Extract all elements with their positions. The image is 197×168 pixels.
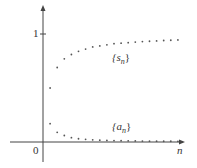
point-a-n — [142, 140, 144, 142]
point-s-n — [120, 42, 122, 44]
point-a-n — [85, 138, 87, 140]
point-a-n — [78, 138, 80, 140]
series-label-s-n: {sn} — [112, 52, 130, 66]
point-a-n — [99, 139, 101, 141]
chart: 1 0 n {sn} {an} — [0, 0, 197, 168]
point-s-n — [49, 87, 51, 89]
plot-area — [0, 0, 197, 168]
point-s-n — [134, 41, 136, 43]
x-axis-label: n — [177, 145, 183, 156]
point-a-n — [127, 140, 129, 142]
y-tick-label-1: 1 — [33, 28, 39, 39]
point-s-n — [149, 40, 151, 42]
point-a-n — [134, 140, 136, 142]
y-axis-arrow-icon — [41, 5, 46, 11]
point-a-n — [92, 139, 94, 141]
point-s-n — [63, 58, 65, 60]
point-s-n — [71, 54, 73, 56]
point-a-n — [113, 140, 115, 142]
point-s-n — [156, 40, 158, 42]
point-s-n — [127, 42, 129, 44]
point-a-n — [177, 140, 179, 142]
point-s-n — [163, 40, 165, 42]
point-a-n — [149, 140, 151, 142]
point-s-n — [92, 46, 94, 48]
point-a-n — [71, 137, 73, 139]
point-s-n — [99, 45, 101, 47]
point-a-n — [120, 140, 122, 142]
point-a-n — [156, 140, 158, 142]
point-a-n — [49, 123, 51, 125]
point-s-n — [106, 44, 108, 46]
point-s-n — [56, 67, 58, 69]
point-s-n — [85, 48, 87, 50]
point-a-n — [163, 140, 165, 142]
point-a-n — [170, 140, 172, 142]
point-s-n — [78, 50, 80, 52]
point-a-n — [63, 135, 65, 137]
point-a-n — [106, 139, 108, 141]
point-s-n — [113, 43, 115, 45]
point-a-n — [56, 131, 58, 133]
origin-label: 0 — [33, 145, 39, 156]
series-label-a-n: {an} — [112, 121, 131, 135]
point-s-n — [170, 39, 172, 41]
point-s-n — [177, 39, 179, 41]
point-s-n — [142, 41, 144, 43]
